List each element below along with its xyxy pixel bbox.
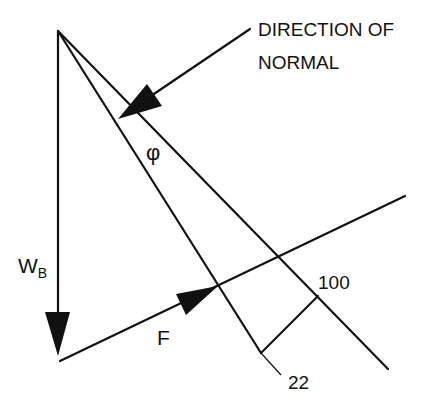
force-diagram: DIRECTION OF NORMAL WB φ F 100 22: [0, 0, 442, 406]
force-label: F: [157, 327, 170, 349]
normal-label-line2: NORMAL: [258, 52, 339, 74]
value-100-label: 100: [318, 272, 350, 294]
weight-symbol: W: [18, 254, 38, 277]
weight-arrowhead-icon: [45, 312, 70, 356]
leader-line-22: [261, 353, 281, 375]
weight-label: WB: [18, 255, 47, 284]
weight-subscript: B: [38, 265, 47, 281]
perpendicular-line: [261, 296, 318, 353]
outer-line: [58, 31, 388, 369]
value-22-label: 22: [288, 372, 309, 394]
normal-label-line1: DIRECTION OF: [258, 19, 394, 41]
force-line: [60, 196, 405, 361]
force-arrowhead-icon: [176, 286, 218, 315]
normal-direction-line: [145, 29, 250, 100]
inner-line: [58, 31, 261, 353]
diagram-lines: [0, 0, 442, 406]
phi-label: φ: [146, 142, 160, 164]
